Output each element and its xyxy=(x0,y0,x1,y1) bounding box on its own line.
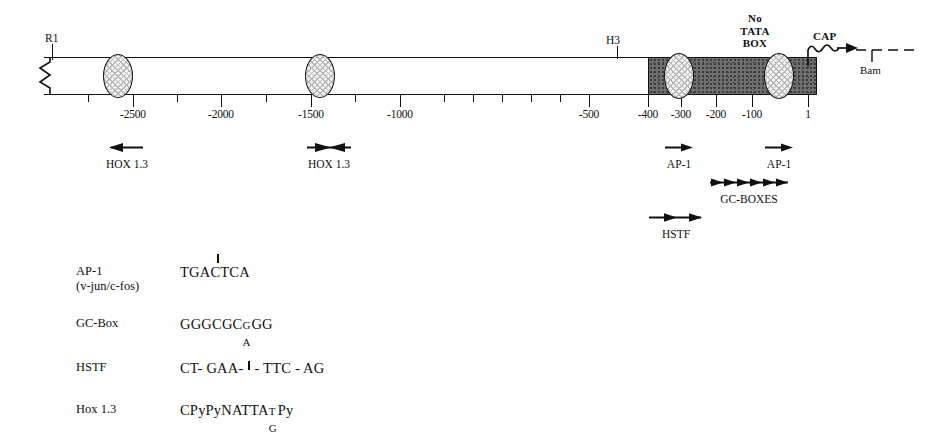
arrow-converge-icon xyxy=(293,142,365,153)
ruler-major-tick xyxy=(311,95,312,107)
ruler-minor-tick xyxy=(560,95,561,102)
no-tata-line-3: BOX xyxy=(728,37,782,50)
feature-ap-1-right: AP-1 xyxy=(755,139,803,170)
feature-label: AP-1 xyxy=(655,158,703,170)
feature-label: HOX 1.3 xyxy=(293,158,365,170)
ruler-minor-tick xyxy=(355,95,356,102)
no-tata-line-1: No xyxy=(728,12,782,25)
arrow-multi-right-icon xyxy=(706,177,792,188)
ruler-minor-tick xyxy=(444,95,445,102)
ruler-label--1000: -1000 xyxy=(387,108,413,120)
ruler-label-1: 1 xyxy=(805,108,811,120)
legend-sequence-suffix: - TTC - AG xyxy=(255,360,325,376)
h3-label: H3 xyxy=(606,34,620,46)
feature-label: HSTF xyxy=(645,228,707,240)
no-tata-box-label: No TATA BOX xyxy=(728,12,782,50)
stack-lower-base: A xyxy=(242,337,250,348)
ap1-binding-ellipse-80 xyxy=(764,53,794,99)
legend-sequence-suffix: GG xyxy=(251,316,272,332)
r1-tick xyxy=(52,44,53,60)
arrow-left-icon xyxy=(91,142,163,153)
ruler-label--2000: -2000 xyxy=(208,108,234,120)
hox-binding-ellipse-1500 xyxy=(305,54,335,98)
ruler-label--500: -500 xyxy=(579,108,599,120)
ruler-label--400: -400 xyxy=(638,108,658,120)
hox-binding-ellipse-2500 xyxy=(103,54,133,98)
legend-factor-name: Hox 1.3 xyxy=(76,402,116,417)
feature-ap-1-left: AP-1 xyxy=(655,139,703,170)
arrow-right-icon xyxy=(755,142,803,153)
stack-upper-base: T xyxy=(269,406,276,417)
ruler-major-tick xyxy=(648,95,649,107)
feature-hox-1-3-left: HOX 1.3 xyxy=(91,139,163,170)
legend-sequence-prefix: CPyPyNATTA xyxy=(180,402,269,418)
feature-gc-boxes: GC-BOXES xyxy=(706,174,792,205)
bam-label: Bam xyxy=(860,64,881,76)
ruler-major-tick xyxy=(716,95,717,107)
ruler-minor-tick xyxy=(473,95,474,102)
dyad-axis-tick xyxy=(248,361,250,370)
feature-label: GC-BOXES xyxy=(706,193,792,205)
coordinate-ruler xyxy=(0,95,926,109)
ruler-label--1500: -1500 xyxy=(298,108,324,120)
ruler-major-tick xyxy=(808,95,809,107)
ruler-label--300: -300 xyxy=(671,108,691,120)
legend-sequence: GGGCGCGAGG xyxy=(180,316,273,333)
ruler-major-tick xyxy=(133,95,134,107)
ruler-label--100: -100 xyxy=(742,108,762,120)
arrow-right-icon xyxy=(655,142,703,153)
feature-hstf: HSTF xyxy=(645,209,707,240)
stack-lower-base: G xyxy=(269,423,277,434)
legend-factor-name: HSTF xyxy=(76,360,107,375)
ruler-major-tick xyxy=(400,95,401,107)
ruler-minor-tick xyxy=(88,95,89,102)
ruler-major-tick xyxy=(752,95,753,107)
legend-sequence-prefix: GGGCGC xyxy=(180,316,242,332)
ruler-major-tick xyxy=(221,95,222,107)
feature-hox-1-3-right: HOX 1.3 xyxy=(293,139,365,170)
legend-sequence: CPyPyNATTATGPy xyxy=(180,402,293,419)
legend-factor-subname: (v-jun/c-fos) xyxy=(76,279,139,294)
ap1-binding-ellipse-300 xyxy=(664,53,694,99)
legend-sequence: TGACTCA xyxy=(180,264,250,281)
ruler-label--2500: -2500 xyxy=(120,108,146,120)
h3-tick xyxy=(617,46,618,59)
ruler-label--200: -200 xyxy=(706,108,726,120)
ruler-minor-tick xyxy=(266,95,267,102)
no-tata-line-2: TATA xyxy=(728,25,782,38)
legend-factor-name: GC-Box xyxy=(76,316,118,331)
legend-sequence-text: TGACTCA xyxy=(180,264,250,280)
legend-sequence-suffix: Py xyxy=(278,402,294,418)
feature-label: HOX 1.3 xyxy=(91,158,163,170)
stack-upper-base: G xyxy=(242,320,250,331)
ruler-minor-tick xyxy=(177,95,178,102)
bam-dashed-line xyxy=(856,44,922,66)
legend-factor-name: AP-1 xyxy=(76,264,102,279)
dyad-axis-tick xyxy=(217,254,219,263)
legend-sequence-prefix: CT- GAA- xyxy=(180,360,244,376)
ruler-major-tick xyxy=(589,95,590,107)
ruler-minor-tick xyxy=(502,95,503,102)
arrow-double-right-icon xyxy=(645,212,707,223)
ruler-minor-tick xyxy=(531,95,532,102)
legend-sequence: CT- GAA-- TTC - AG xyxy=(180,360,324,377)
feature-label: AP-1 xyxy=(755,158,803,170)
r1-label: R1 xyxy=(45,32,58,44)
cap-label: CAP xyxy=(813,30,837,42)
